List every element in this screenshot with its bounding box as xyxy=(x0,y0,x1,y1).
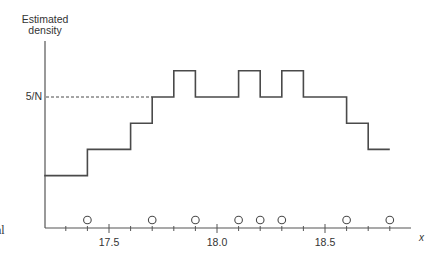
x-tick-label: 18.0 xyxy=(207,236,227,248)
x-axis-label: x xyxy=(419,232,424,243)
data-point-markers xyxy=(84,216,394,224)
y-tick-label-5n: 5/N xyxy=(26,90,42,102)
axes xyxy=(45,41,411,233)
y-axis-label-line-2: density xyxy=(22,25,69,36)
cropped-side-text: al xyxy=(0,223,5,238)
x-tick-label: 17.5 xyxy=(99,236,119,248)
density-step-line xyxy=(44,71,390,176)
x-tick-label: 18.5 xyxy=(315,236,335,248)
y-axis-label: Estimated density xyxy=(22,14,69,36)
histogram-chart xyxy=(0,0,441,259)
